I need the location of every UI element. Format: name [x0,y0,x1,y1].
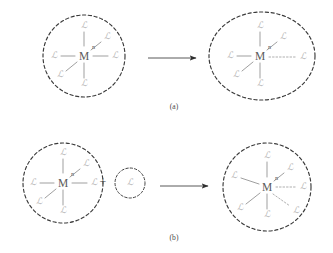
ligand-lower-left: ℒ [237,202,244,212]
panel-b-caption: (b) [170,233,179,242]
ligand-lower-right: ℒ [293,205,300,215]
bond-lower-left [45,189,56,198]
metal-center: M [58,177,68,189]
ligand-bottom: ℒ [81,78,88,88]
ligand-free: ℒ [127,177,134,187]
ligand-lower-left: ℒ [233,69,240,79]
coordination-subscript: n [275,174,278,181]
panel-b-reactant: ℒ ℒ ℒ ℒ ℒ ℒ M n [23,143,103,223]
ligand-right-elongated: ℒ [300,51,307,61]
bond-left [241,178,259,184]
ligand-left: ℒ [231,170,238,180]
ligand-bottom: ℒ [257,78,264,88]
ligand-upper-right: ℒ [104,31,111,41]
ligand-right: ℒ [112,50,119,60]
ligand-upper-right: ℒ [83,158,90,168]
bond-lower-left [66,62,77,71]
ligand-top: ℒ [257,20,264,30]
ligand-left: ℒ [30,177,37,187]
ligand-lower-left: ℒ [36,196,43,206]
ligand-left: ℒ [227,50,234,60]
panel-a-reactant: ℒ ℒ ℒ ℒ ℒ ℒ M n [43,15,125,97]
ligand-bottom: ℒ [264,209,271,219]
ligand-upper-right: ℒ [287,162,294,172]
ligand-right: ℒ [91,177,98,187]
panel-b-added-ligand: ℒ [115,168,145,198]
chemistry-diagram: ℒ ℒ ℒ ℒ ℒ ℒ M n ℒ ℒ ℒ [0,0,333,253]
coordination-subscript: n [92,43,95,50]
ligand-top: ℒ [60,147,67,157]
metal-center: M [262,181,272,193]
panel-a-product: ℒ ℒ ℒ ℒ ℒ ℒ M n [209,12,315,100]
ligand-top: ℒ [81,20,88,30]
metal-center: M [255,50,265,62]
bond-lower-right [273,194,290,206]
ligand-left: ℒ [51,50,58,60]
figure-canvas: ℒ ℒ ℒ ℒ ℒ ℒ M n ℒ ℒ ℒ [0,0,333,253]
panel-b-product: ℒ ℒ ℒ ℒ ℒ ℒ ℒ M n [223,143,311,231]
panel-b: ℒ ℒ ℒ ℒ ℒ ℒ M n + ℒ [23,143,311,242]
panel-a-caption: (a) [170,102,179,111]
bond-lower-left [246,193,260,204]
bond-lower-left [242,62,253,71]
ligand-bottom: ℒ [60,205,67,215]
plus-sign: + [100,175,107,189]
ligand-lower-left: ℒ [57,69,64,79]
coordination-subscript: n [268,43,271,50]
metal-center: M [79,50,89,62]
ligand-top: ℒ [264,150,271,160]
ligand-upper-right: ℒ [280,31,287,41]
coordination-subscript: n [71,170,74,177]
ligand-right: ℒ [300,181,307,191]
panel-a: ℒ ℒ ℒ ℒ ℒ ℒ M n ℒ ℒ ℒ [43,12,315,111]
